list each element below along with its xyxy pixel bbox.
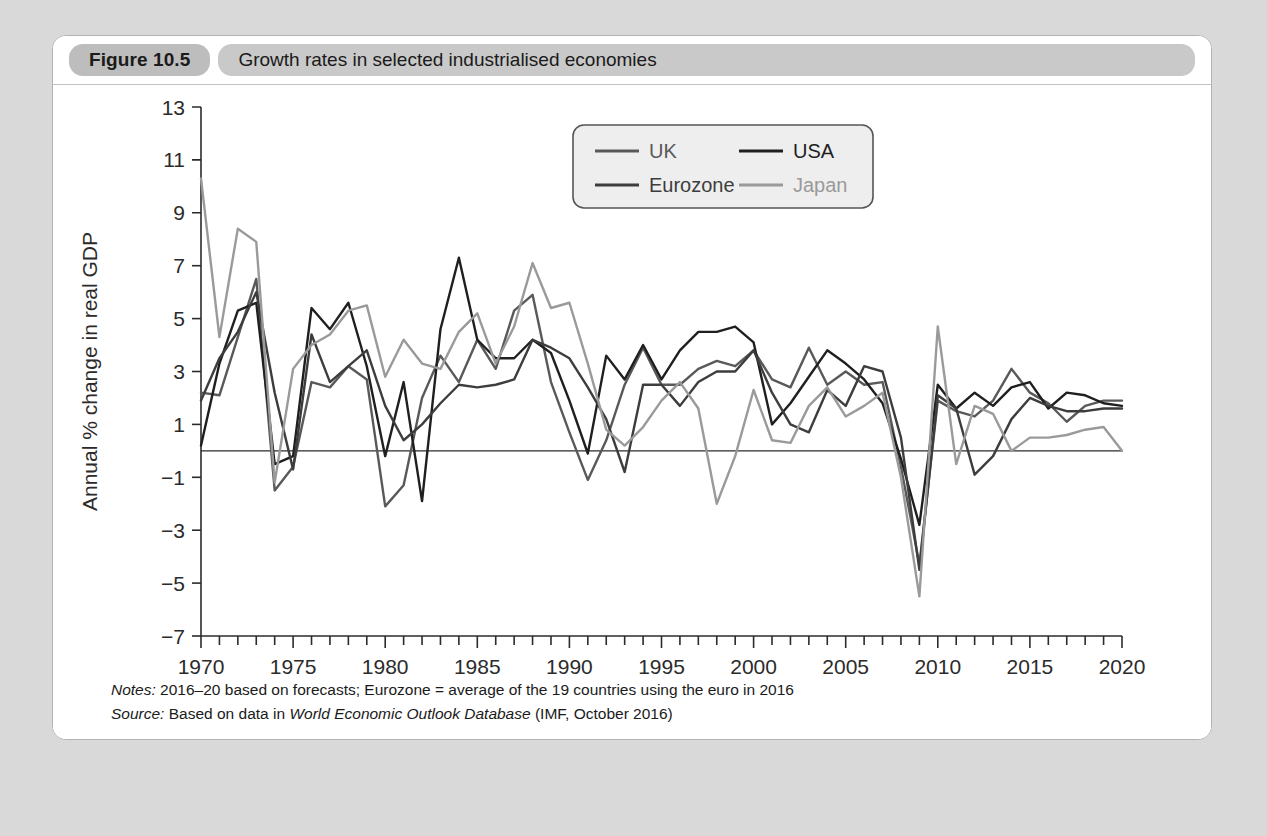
y-tick-label: 13	[162, 96, 185, 119]
figure-title: Growth rates in selected industrialised …	[218, 44, 1195, 76]
y-tick-label: 1	[173, 413, 185, 436]
x-tick-label: 1990	[546, 655, 593, 678]
x-tick-label: 1975	[270, 655, 317, 678]
series-line-usa	[201, 258, 1122, 525]
x-tick-label: 1995	[638, 655, 685, 678]
notes-text: 2016–20 based on forecasts; Eurozone = a…	[156, 681, 794, 698]
series-line-japan	[201, 178, 1122, 596]
legend-label-uk: UK	[649, 140, 677, 162]
x-tick-label: 2020	[1099, 655, 1146, 678]
x-tick-label: 1980	[362, 655, 409, 678]
figure-card: Figure 10.5 Growth rates in selected ind…	[52, 35, 1212, 740]
footnotes: Notes: 2016–20 based on forecasts; Euroz…	[111, 678, 794, 726]
source-line: Source: Based on data in World Economic …	[111, 702, 794, 726]
y-tick-label: 7	[173, 254, 185, 277]
figure-body: −7−5−3−113579111319701975198019851990199…	[53, 84, 1211, 740]
x-tick-label: 2000	[730, 655, 777, 678]
x-tick-label: 2010	[914, 655, 961, 678]
series-line-eurozone	[201, 292, 1122, 570]
legend-label-usa: USA	[793, 140, 835, 162]
source-label: Source:	[111, 705, 164, 722]
x-tick-label: 2005	[822, 655, 869, 678]
y-tick-label: −7	[161, 625, 185, 648]
legend-label-japan: Japan	[793, 174, 848, 196]
y-tick-label: −3	[161, 519, 185, 542]
x-tick-label: 1985	[454, 655, 501, 678]
source-publication: World Economic Outlook Database	[289, 705, 530, 722]
legend-label-eurozone: Eurozone	[649, 174, 735, 196]
y-tick-label: −1	[161, 466, 185, 489]
figure-number-badge: Figure 10.5	[69, 44, 210, 76]
notes-line: Notes: 2016–20 based on forecasts; Euroz…	[111, 678, 794, 702]
x-tick-label: 2015	[1007, 655, 1054, 678]
y-tick-label: 3	[173, 360, 185, 383]
source-text-post: (IMF, October 2016)	[531, 705, 673, 722]
growth-rates-line-chart: −7−5−3−113579111319701975198019851990199…	[53, 85, 1211, 685]
source-text-pre: Based on data in	[164, 705, 289, 722]
x-tick-label: 1970	[178, 655, 225, 678]
chart-legend: UKUSAEurozoneJapan	[573, 125, 873, 208]
y-tick-label: −5	[161, 572, 185, 595]
y-axis-title: Annual % change in real GDP	[78, 232, 101, 511]
figure-header: Figure 10.5 Growth rates in selected ind…	[53, 36, 1211, 84]
y-tick-label: 11	[163, 148, 185, 171]
notes-label: Notes:	[111, 681, 156, 698]
y-tick-label: 9	[173, 201, 185, 224]
y-tick-label: 5	[173, 307, 185, 330]
